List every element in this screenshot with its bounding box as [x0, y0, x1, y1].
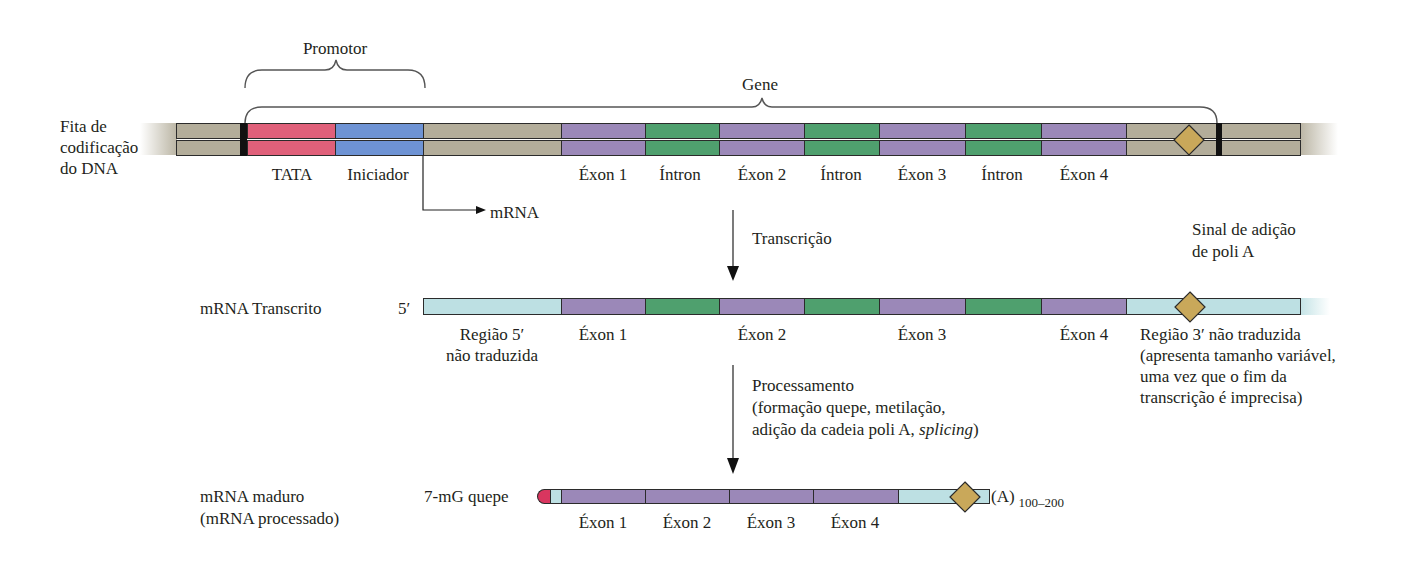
- polyA-signal-diamond-dna-icon: [1174, 125, 1204, 155]
- transcription-start-arrow-icon: [423, 155, 478, 210]
- transcription-start-arrowhead-icon: [476, 206, 486, 214]
- promoter-brace-icon: [245, 60, 425, 88]
- polyA-signal-diamond-mature-icon: [950, 482, 980, 512]
- transcription-arrowhead-icon: [727, 266, 739, 281]
- polyA-signal-diamond-transcript-icon: [1175, 292, 1205, 322]
- diagram-overlay: [0, 0, 1412, 561]
- gene-brace-icon: [245, 98, 1217, 123]
- processing-arrowhead-icon: [727, 458, 739, 474]
